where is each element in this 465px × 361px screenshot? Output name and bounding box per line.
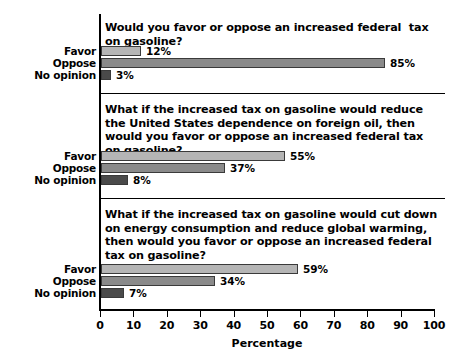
x-axis-title: Percentage	[99, 337, 435, 350]
x-tick-50	[267, 311, 268, 317]
panel-3-value-noopinion: 7%	[129, 287, 147, 299]
panel-3-label-noopinion: No opinion	[0, 287, 96, 299]
y-axis-line	[99, 14, 101, 310]
panel-3-value-oppose: 34%	[220, 275, 245, 287]
panel-3-bar-favor	[101, 264, 298, 274]
panel-2-value-favor: 55%	[290, 150, 315, 162]
x-tick-70	[334, 311, 335, 317]
panel-1-label-noopinion: No opinion	[0, 69, 96, 81]
panel-separator-1	[101, 93, 445, 94]
panel-3-label-favor: Favor	[0, 263, 96, 275]
panel-3-row-oppose: Oppose 34%	[0, 275, 465, 287]
panel-3-row-noopinion: No opinion 7%	[0, 287, 465, 299]
panel-2-value-oppose: 37%	[230, 162, 255, 174]
x-tick-40	[234, 311, 235, 317]
panel-2-row-noopinion: No opinion 8%	[0, 174, 465, 186]
panel-1-label-oppose: Oppose	[0, 57, 96, 69]
panel-1-label-favor: Favor	[0, 45, 96, 57]
x-tick-100	[434, 311, 435, 317]
panel-1-bar-favor	[101, 46, 141, 56]
panel-3-label-oppose: Oppose	[0, 275, 96, 287]
panel-1-row-noopinion: No opinion 3%	[0, 69, 465, 81]
panel-3-row-favor: Favor 59%	[0, 263, 465, 275]
panel-2-label-favor: Favor	[0, 150, 96, 162]
panel-2-bar-noopinion	[101, 175, 128, 185]
panel-2-bar-oppose	[101, 163, 225, 173]
panel-1-bar-noopinion	[101, 70, 111, 80]
x-tick-10	[133, 311, 134, 317]
panel-1-value-favor: 12%	[146, 45, 171, 57]
x-tick-20	[167, 311, 168, 317]
x-tick-0	[100, 311, 101, 317]
panel-3-value-favor: 59%	[303, 263, 328, 275]
x-tick-60	[300, 311, 301, 317]
x-tick-90	[401, 311, 402, 317]
x-tick-30	[200, 311, 201, 317]
panel-separator-2	[101, 198, 445, 199]
panel-1-value-oppose: 85%	[390, 57, 415, 69]
panel-2-row-favor: Favor 55%	[0, 150, 465, 162]
panel-2-label-noopinion: No opinion	[0, 174, 96, 186]
panel-1-row-oppose: Oppose 85%	[0, 57, 465, 69]
panel-1-value-noopinion: 3%	[116, 69, 134, 81]
x-tick-label-100: 100	[414, 319, 454, 332]
panel-3-bar-oppose	[101, 276, 215, 286]
panel-3-question: What if the increased tax on gasoline wo…	[105, 208, 441, 262]
panel-2-label-oppose: Oppose	[0, 162, 96, 174]
survey-bar-chart: Would you favor or oppose an increased f…	[0, 0, 465, 361]
x-tick-80	[367, 311, 368, 317]
panel-3-bar-noopinion	[101, 288, 124, 298]
panel-2-value-noopinion: 8%	[133, 174, 151, 186]
panel-1-row-favor: Favor 12%	[0, 45, 465, 57]
panel-2-bar-favor	[101, 151, 285, 161]
panel-1-bar-oppose	[101, 58, 385, 68]
panel-2-row-oppose: Oppose 37%	[0, 162, 465, 174]
